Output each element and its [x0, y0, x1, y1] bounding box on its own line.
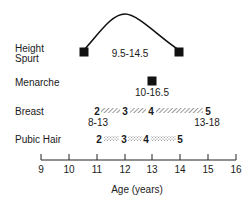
x-tick-12: 12	[119, 164, 130, 175]
breast-bar-2-3	[101, 108, 120, 113]
pubic-stage-5: 5	[177, 134, 183, 145]
height-spurt-end-marker	[175, 48, 184, 57]
x-tick-11: 11	[92, 164, 102, 175]
breast-end-range: 13-18	[194, 117, 220, 128]
x-tick-14: 14	[174, 164, 185, 175]
pubic-bar-2-3	[104, 136, 119, 141]
x-axis-ticks	[41, 154, 236, 160]
height-spurt-start-marker	[80, 48, 89, 57]
breast-stage-2: 2	[94, 106, 100, 117]
x-tick-9: 9	[38, 164, 44, 175]
x-axis-title: Age (years)	[111, 184, 163, 195]
x-tick-15: 15	[202, 164, 213, 175]
menarche-marker	[148, 77, 157, 86]
pubic-bar-3-4	[128, 136, 142, 141]
x-tick-10: 10	[63, 164, 74, 175]
row-label-spurt: Spurt	[15, 53, 39, 64]
breast-stage-3: 3	[122, 106, 128, 117]
breast-stage-4: 4	[148, 106, 154, 117]
x-tick-13: 13	[146, 164, 157, 175]
pubic-bar-4-5	[151, 136, 176, 141]
breast-bar-3-4	[130, 108, 146, 113]
x-tick-16: 16	[230, 164, 241, 175]
pubic-stage-2: 2	[96, 134, 102, 145]
height-spurt-range: 9.5-14.5	[112, 48, 149, 59]
pubic-stage-3: 3	[121, 134, 127, 145]
breast-stage-5: 5	[205, 106, 211, 117]
menarche-range: 10-16.5	[135, 87, 169, 98]
pubic-stage-4: 4	[143, 134, 149, 145]
row-label-pubic-hair: Pubic Hair	[15, 134, 61, 145]
row-label-menarche: Menarche	[15, 77, 59, 88]
breast-start-range: 8-13	[88, 117, 108, 128]
breast-bar-4-5	[156, 108, 203, 113]
row-label-breast: Breast	[15, 106, 44, 117]
height-spurt-curve	[84, 14, 179, 50]
